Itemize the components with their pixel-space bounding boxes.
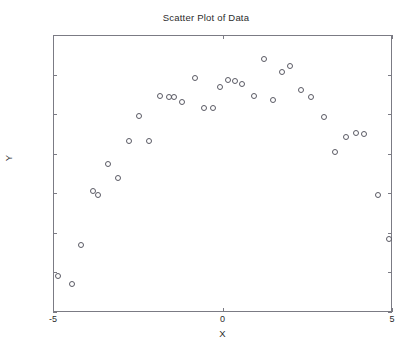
- y-axis-tick-mark: [53, 75, 57, 76]
- data-point: [343, 134, 349, 140]
- data-point: [251, 93, 257, 99]
- data-point: [225, 77, 231, 83]
- data-point: [321, 114, 327, 120]
- data-point: [146, 138, 152, 144]
- data-point: [126, 138, 132, 144]
- x-axis-tick-label: -5: [49, 314, 57, 324]
- data-point: [179, 99, 185, 105]
- data-point: [217, 84, 223, 90]
- y-axis-tick-mark-right: [388, 272, 392, 273]
- y-axis-tick-mark-right: [388, 193, 392, 194]
- data-point: [192, 75, 198, 81]
- data-point: [136, 113, 142, 119]
- scatter-plot-figure: Scatter Plot of Data 100-10-20-30-40-50-…: [0, 0, 412, 350]
- data-point: [55, 273, 61, 279]
- x-axis-tick-label: 0: [220, 314, 225, 324]
- data-point: [261, 56, 267, 62]
- x-axis-tick-mark-top: [53, 35, 54, 39]
- y-axis-tick-mark: [53, 193, 57, 194]
- data-point: [115, 175, 121, 181]
- data-point: [171, 94, 177, 100]
- data-point: [105, 161, 111, 167]
- data-point: [157, 93, 163, 99]
- data-point: [298, 87, 304, 93]
- data-point: [201, 105, 207, 111]
- data-point: [332, 149, 338, 155]
- x-axis-tick-label: 5: [389, 314, 394, 324]
- data-point: [69, 281, 75, 287]
- data-point: [308, 94, 314, 100]
- plot-area: [53, 35, 392, 312]
- y-axis-tick-mark: [53, 312, 57, 313]
- y-axis-tick-mark-right: [388, 233, 392, 234]
- y-axis-tick-mark: [53, 154, 57, 155]
- data-point: [239, 81, 245, 87]
- y-axis-tick-mark-right: [388, 75, 392, 76]
- data-point: [232, 78, 238, 84]
- x-axis-tick-mark: [223, 308, 224, 312]
- data-point: [386, 236, 392, 242]
- data-point: [279, 69, 285, 75]
- y-axis-tick-mark: [53, 114, 57, 115]
- y-axis-tick-mark-right: [388, 312, 392, 313]
- chart-title: Scatter Plot of Data: [0, 12, 412, 23]
- data-point: [361, 131, 367, 137]
- data-points-layer: [54, 36, 393, 313]
- data-point: [287, 63, 293, 69]
- data-point: [95, 192, 101, 198]
- x-axis-tick-mark-top: [392, 35, 393, 39]
- data-point: [210, 105, 216, 111]
- x-axis-label: X: [53, 328, 392, 339]
- data-point: [353, 130, 359, 136]
- x-axis-tick-mark: [53, 308, 54, 312]
- data-point: [78, 242, 84, 248]
- data-point: [270, 97, 276, 103]
- y-axis-tick-mark-right: [388, 154, 392, 155]
- y-axis-tick-mark: [53, 233, 57, 234]
- x-axis-tick-mark-top: [223, 35, 224, 39]
- data-point: [375, 192, 381, 198]
- x-axis-tick-mark: [392, 308, 393, 312]
- y-axis-tick-mark: [53, 272, 57, 273]
- y-axis-tick-mark-right: [388, 114, 392, 115]
- y-axis-label: Y: [3, 155, 14, 161]
